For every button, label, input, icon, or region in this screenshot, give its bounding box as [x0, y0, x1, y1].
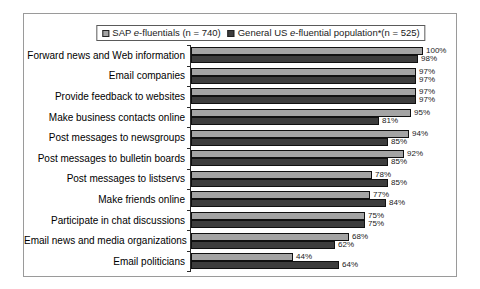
plot-area: 44%64%	[190, 251, 455, 272]
bar-line: 98%	[191, 55, 455, 63]
bar-general	[191, 220, 365, 228]
legend-label: SAP e-fluentials (n = 740)	[112, 28, 220, 38]
bar-general	[191, 179, 388, 187]
category-label: Post messages to bulletin boards	[24, 153, 190, 164]
bar-line: 62%	[191, 241, 455, 249]
legend-item-general: General US e-fluential population*(n = 5…	[228, 28, 420, 38]
bar-line: 97%	[191, 96, 455, 104]
category-row: Email companies97%97%	[24, 66, 455, 87]
bar-line: 85%	[191, 138, 455, 146]
category-label: Make friends online	[24, 194, 190, 205]
value-label: 98%	[421, 55, 437, 63]
category-row: Post messages to newsgroups94%85%	[24, 127, 455, 148]
bar-line: 84%	[191, 199, 455, 207]
bar-line: 85%	[191, 179, 455, 187]
plot-area: 92%85%	[190, 148, 455, 169]
bar-general	[191, 117, 379, 125]
category-row: Forward news and Web information100%98%	[24, 45, 455, 66]
value-label: 85%	[391, 158, 407, 166]
legend-square-icon	[102, 30, 109, 37]
value-label: 64%	[342, 261, 358, 269]
bar-sap	[191, 68, 416, 76]
bar-general	[191, 138, 388, 146]
bar-sap	[191, 130, 409, 138]
bar-line: 97%	[191, 76, 455, 84]
bar-sap	[191, 171, 372, 179]
bar-line: 95%	[191, 109, 455, 117]
category-row: Post messages to bulletin boards92%85%	[24, 148, 455, 169]
category-row: Provide feedback to websites97%97%	[24, 86, 455, 107]
bar-sap	[191, 47, 423, 55]
value-label: 81%	[382, 117, 398, 125]
plot-area: 95%81%	[190, 107, 455, 128]
category-label: Participate in chat discussions	[24, 215, 190, 226]
bar-general	[191, 76, 416, 84]
chart-frame: SAP e-fluentials (n = 740)General US e-f…	[23, 13, 457, 277]
bar-sap	[191, 233, 349, 241]
bar-sap	[191, 253, 293, 261]
category-row: Make friends online77%84%	[24, 189, 455, 210]
plot-area: 77%84%	[190, 189, 455, 210]
bar-sap	[191, 88, 416, 96]
value-label: 94%	[412, 130, 428, 138]
bar-line: 44%	[191, 253, 455, 261]
plot-area: 94%85%	[190, 127, 455, 148]
category-label: Provide feedback to websites	[24, 91, 190, 102]
value-label: 95%	[414, 109, 430, 117]
bar-line: 68%	[191, 233, 455, 241]
bar-sap	[191, 212, 365, 220]
bar-general	[191, 96, 416, 104]
value-label: 85%	[391, 138, 407, 146]
plot-area: 100%98%	[190, 45, 455, 66]
bar-line: 64%	[191, 261, 455, 269]
category-row: Participate in chat discussions75%75%	[24, 210, 455, 231]
value-label: 68%	[352, 233, 368, 241]
plot-area: 68%62%	[190, 230, 455, 251]
bar-general	[191, 55, 418, 63]
bar-general	[191, 241, 335, 249]
bar-line: 92%	[191, 150, 455, 158]
bar-line: 85%	[191, 158, 455, 166]
bar-line: 97%	[191, 68, 455, 76]
chart-rows: Forward news and Web information100%98%E…	[24, 45, 455, 272]
value-label: 97%	[419, 76, 435, 84]
value-label: 85%	[391, 179, 407, 187]
bar-line: 77%	[191, 191, 455, 199]
bar-general	[191, 199, 386, 207]
category-row: Email news and media organizations68%62%	[24, 230, 455, 251]
chart-legend: SAP e-fluentials (n = 740)General US e-f…	[96, 25, 425, 41]
bar-sap	[191, 150, 404, 158]
value-label: 92%	[407, 150, 423, 158]
category-row: Email politicians44%64%	[24, 251, 455, 272]
category-row: Post messages to listservs78%85%	[24, 169, 455, 190]
legend-item-sap: SAP e-fluentials (n = 740)	[102, 28, 220, 38]
bar-line: 78%	[191, 171, 455, 179]
legend-label: General US e-fluential population*(n = 5…	[238, 28, 420, 38]
value-label: 97%	[419, 96, 435, 104]
value-label: 44%	[296, 253, 312, 261]
category-row: Make business contacts online95%81%	[24, 107, 455, 128]
bar-general	[191, 158, 388, 166]
category-label: Email companies	[24, 70, 190, 81]
bar-general	[191, 261, 339, 269]
value-label: 84%	[389, 199, 405, 207]
plot-area: 97%97%	[190, 66, 455, 87]
plot-area: 97%97%	[190, 86, 455, 107]
plot-area: 78%85%	[190, 169, 455, 190]
category-label: Forward news and Web information	[24, 50, 190, 61]
bar-line: 97%	[191, 88, 455, 96]
value-label: 77%	[373, 191, 389, 199]
bar-line: 75%	[191, 220, 455, 228]
value-label: 75%	[368, 220, 384, 228]
bar-line: 81%	[191, 117, 455, 125]
bar-line: 100%	[191, 47, 455, 55]
bar-sap	[191, 109, 411, 117]
legend-square-icon	[228, 30, 235, 37]
bar-line: 75%	[191, 212, 455, 220]
category-label: Post messages to listservs	[24, 173, 190, 184]
category-label: Email news and media organizations	[24, 235, 190, 246]
bar-sap	[191, 191, 370, 199]
value-label: 78%	[375, 171, 391, 179]
category-label: Email politicians	[24, 256, 190, 267]
category-label: Post messages to newsgroups	[24, 132, 190, 143]
